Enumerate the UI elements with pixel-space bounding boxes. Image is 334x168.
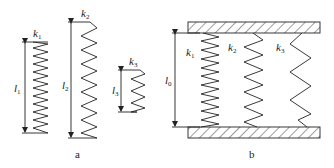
panel-caption-b: b xyxy=(249,148,255,160)
top-fixed-plate xyxy=(188,22,320,33)
stiffness-label-k2: k2 xyxy=(228,41,237,55)
spring-coil xyxy=(290,33,311,127)
spring-k1-installed: k1 xyxy=(186,33,219,127)
panel-caption-a: a xyxy=(75,148,80,160)
length-label-l3: l3 xyxy=(112,84,119,98)
length-label-l1: l1 xyxy=(14,82,21,96)
spring-k1-free: k1 l1 xyxy=(14,27,48,133)
spring-k2-free: k2 l2 xyxy=(62,7,97,138)
panel-a: k1 l1 k2 l2 k3 l3 a xyxy=(14,7,145,160)
length-label-l0: l0 xyxy=(165,74,172,88)
bottom-fixed-plate xyxy=(188,127,320,138)
spring-diagram: k1 l1 k2 l2 k3 l3 a l0 xyxy=(0,0,334,168)
stiffness-label-k3: k3 xyxy=(276,41,285,55)
spring-coil xyxy=(244,33,263,127)
stiffness-label-k2: k2 xyxy=(81,7,90,21)
stiffness-label-k1: k1 xyxy=(186,46,195,60)
spring-coil xyxy=(33,42,48,133)
spring-coil xyxy=(131,70,145,112)
spring-k3-free: k3 l3 xyxy=(112,55,145,112)
panel-b: l0 k1 k2 k3 b xyxy=(165,22,320,160)
spring-coil xyxy=(201,33,219,127)
stiffness-label-k3: k3 xyxy=(129,55,138,69)
spring-k3-installed: k3 xyxy=(276,33,311,127)
spring-coil xyxy=(81,22,97,138)
length-label-l2: l2 xyxy=(62,79,69,93)
stiffness-label-k1: k1 xyxy=(33,27,42,41)
spring-k2-installed: k2 xyxy=(228,33,263,127)
